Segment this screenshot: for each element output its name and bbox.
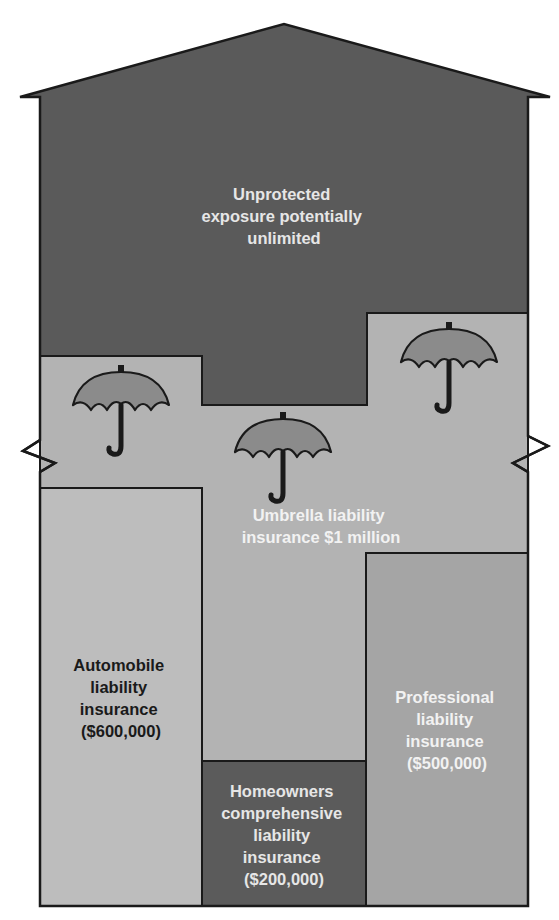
house-coverage-diagram: Unprotected exposure potentially unlimit… xyxy=(0,0,559,920)
automobile-region xyxy=(40,488,202,906)
professional-region xyxy=(366,553,528,906)
